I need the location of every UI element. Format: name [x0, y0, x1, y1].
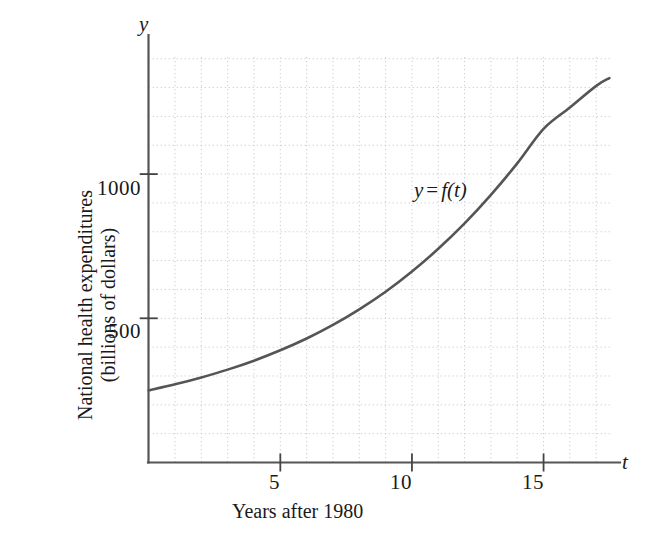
data-curve — [149, 78, 610, 390]
x-tick-label-5: 5 — [269, 472, 280, 493]
x-tick-label-10: 10 — [390, 472, 412, 493]
y-axis-caption-line2: (billions of dollars) — [97, 190, 120, 420]
curve-equation-label: y=f(t) — [414, 180, 467, 201]
y-axis-caption-line1: National health expenditures — [74, 190, 97, 420]
x-tick-label-15: 15 — [522, 472, 544, 493]
y-axis-symbol: y — [139, 14, 148, 35]
y-axis-caption-wrap: National health expenditures (billions o… — [0, 0, 120, 536]
curve-equation-rhs: f(t) — [441, 178, 467, 202]
x-axis-symbol: t — [622, 452, 628, 473]
curve-equation-operator: = — [423, 178, 441, 202]
grid-lines-horizontal — [149, 59, 612, 434]
y-axis-caption: National health expenditures (billions o… — [74, 190, 120, 420]
curve-equation-lhs: y — [414, 178, 423, 202]
x-axis-caption: Years after 1980 — [232, 501, 363, 521]
grid-lines-vertical — [149, 57, 597, 463]
chart-figure: y t 1000 500 5 10 15 y=f(t) Years after … — [0, 0, 661, 536]
